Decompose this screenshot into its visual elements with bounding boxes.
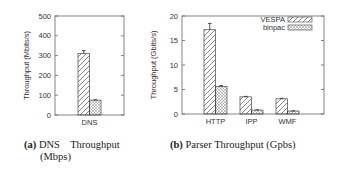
- bar-vespa: [204, 30, 216, 114]
- bar-vespa: [276, 99, 288, 114]
- caption-b-label: (b): [170, 139, 183, 150]
- caption-a: (a) DNS Throughput (Mbps): [24, 139, 120, 163]
- legend-swatch: [288, 17, 312, 22]
- y-tick-label: 400: [38, 31, 51, 40]
- caption-b-text: Parser Throughput (Gpbs): [185, 139, 295, 150]
- y-tick-label: 0: [174, 110, 178, 119]
- x-tick-label: WMF: [279, 117, 297, 126]
- y-tick-label: 10: [170, 61, 178, 70]
- caption-a-label: (a): [24, 139, 36, 150]
- y-tick-label: 200: [38, 71, 51, 80]
- y-tick-label: 500: [38, 12, 51, 21]
- bar-binpac: [216, 87, 228, 114]
- dns-throughput-chart: 0100200300400500Throughput (Mbits/s)DNS: [22, 12, 124, 127]
- caption-b: (b) Parser Throughput (Gpbs): [170, 139, 296, 151]
- legend-swatch: [288, 25, 312, 30]
- y-tick-label: 15: [170, 36, 178, 45]
- x-tick-label: IPP: [245, 117, 257, 126]
- y-tick-label: 100: [38, 91, 51, 100]
- bar-vespa: [78, 54, 90, 115]
- x-tick-label: HTTP: [206, 117, 226, 126]
- plot-frame: [182, 16, 324, 114]
- y-tick-label: 300: [38, 51, 51, 60]
- parser-throughput-chart: 05101520Throughput (Gbits/s)HTTPIPPWMFVE…: [149, 12, 324, 126]
- y-tick-label: 20: [170, 12, 178, 21]
- y-axis-label: Throughput (Gbits/s): [149, 30, 158, 99]
- y-axis-label: Throughput (Mbits/s): [22, 30, 31, 100]
- bar-vespa: [240, 97, 252, 114]
- bar-binpac: [252, 110, 264, 114]
- y-tick-label: 0: [47, 111, 51, 120]
- bar-binpac: [90, 100, 102, 115]
- legend-label: binpac: [263, 23, 285, 32]
- bar-binpac: [288, 111, 300, 114]
- caption-a-line1: DNS Throughput: [39, 139, 120, 150]
- x-tick-label: DNS: [82, 118, 98, 127]
- y-tick-label: 5: [174, 85, 178, 94]
- caption-a-line2: (Mbps): [24, 151, 71, 162]
